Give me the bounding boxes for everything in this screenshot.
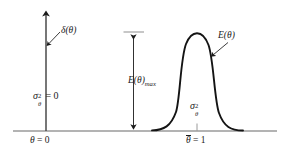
delta-leader-arrow (49, 32, 61, 44)
variance-zero-subscript: θ (38, 101, 41, 108)
variance-curve-label: σ2θ (190, 101, 195, 111)
variance-curve-superscript: 2 (195, 103, 198, 110)
energy-max-label: E(θ)max (128, 76, 156, 88)
delta-function-label: δ(θ) (61, 26, 76, 36)
variance-zero-equals: = 0 (43, 90, 59, 101)
energy-max-base: E(θ) (128, 75, 145, 85)
variance-curve-sigma-cluster: σ2θ (190, 101, 195, 111)
figure-canvas: δ(θ) E(θ) E(θ)max σ2θ = 0 σ2θ θ = 0 θ = … (0, 0, 289, 159)
variance-zero-label: σ2θ = 0 (33, 91, 59, 101)
variance-curve-subscript: θ (195, 111, 198, 118)
theta-bar-value: = 1 (191, 135, 206, 145)
energy-leader-arrow (213, 43, 228, 56)
variance-zero-superscript: 2 (38, 93, 41, 100)
theta-zero-tick-label: θ = 0 (30, 136, 50, 146)
energy-function-label: E(θ) (218, 31, 235, 41)
theta-zero-value: = 0 (35, 135, 50, 145)
energy-max-subscript: max (145, 80, 156, 87)
theta-bar-tick-label: θ = 1 (186, 135, 206, 146)
variance-zero-sigma-cluster: σ2θ (33, 91, 38, 101)
